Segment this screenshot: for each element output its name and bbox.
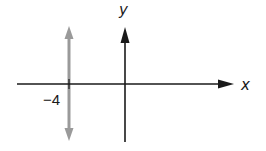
x-axis-arrow-icon bbox=[218, 80, 234, 89]
line-arrow-down-icon bbox=[65, 128, 74, 141]
coordinate-plane-svg bbox=[0, 0, 266, 151]
y-axis-arrow-icon bbox=[121, 27, 130, 43]
tick-label-neg4: −4 bbox=[43, 92, 60, 107]
line-arrow-up-icon bbox=[65, 26, 74, 39]
y-axis-label: y bbox=[119, 3, 128, 18]
coordinate-plane-figure: y x −4 bbox=[0, 0, 266, 151]
x-axis-label: x bbox=[241, 78, 250, 93]
